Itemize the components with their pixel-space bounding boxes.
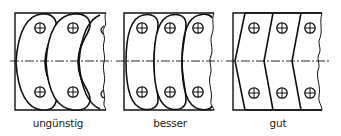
break-line: [103, 13, 106, 110]
hole-icon: [35, 87, 45, 97]
hole-icon: [193, 23, 203, 33]
label-gut: gut: [270, 117, 287, 129]
link-edge-3: [292, 13, 301, 110]
link-3: [182, 14, 212, 110]
hole-icon: [35, 23, 45, 33]
panel-gut: [226, 13, 330, 110]
hole-icon: [277, 88, 287, 98]
panel-besser: [116, 13, 222, 110]
hole-icon: [137, 87, 147, 97]
hole-icon: [249, 23, 259, 33]
hole-icon: [305, 23, 315, 33]
hole-icon: [249, 88, 259, 98]
hole-icon: [68, 87, 78, 97]
hole-icon: [68, 23, 78, 33]
hole-icon: [193, 87, 203, 97]
link-edge-2: [264, 13, 273, 110]
label-ungunstig: ungünstig: [33, 117, 84, 129]
panel-ungunstig: [10, 13, 112, 110]
chain-link-comparison-figure: [0, 0, 341, 136]
hole-icon: [137, 23, 147, 33]
hole-icon: [165, 87, 175, 97]
break-line: [318, 13, 322, 110]
link-edge-1: [235, 13, 245, 110]
hole-icon: [277, 23, 287, 33]
label-besser: besser: [153, 117, 187, 129]
break-line: [210, 13, 214, 110]
hole-icon: [305, 88, 315, 98]
hole-icon: [165, 23, 175, 33]
